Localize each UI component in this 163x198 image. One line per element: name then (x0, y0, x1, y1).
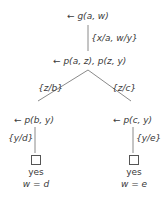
mid-goal: ← p(a, z), p(z, y) (53, 56, 126, 66)
left-goal: ← p(b, y) (14, 115, 54, 125)
substitution-right-leaf: {y/e} (136, 133, 161, 143)
right-success-box-icon (129, 155, 139, 165)
substitution-left-leaf: {y/d} (8, 133, 34, 143)
substitution-mid-right: {z/c} (112, 83, 136, 93)
substitution-root-mid: {x/a, w/y} (91, 33, 138, 43)
left-answer: w = d (23, 179, 49, 189)
right-result: yes (126, 167, 142, 177)
substitution-mid-left: {z/b} (38, 83, 63, 93)
right-answer: w = e (121, 179, 147, 189)
root-goal: ← g(a, w) (67, 11, 109, 21)
left-success-box-icon (31, 155, 41, 165)
left-result: yes (28, 167, 44, 177)
right-goal: ← p(c, y) (113, 115, 152, 125)
